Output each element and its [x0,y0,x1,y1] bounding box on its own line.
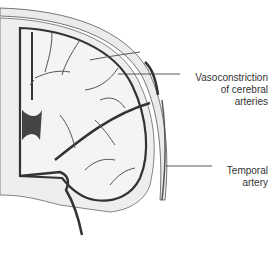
label-temporal-artery: Temporal artery [198,165,268,189]
brain-artery-illustration [0,0,273,254]
label-line: of cerebral [168,84,268,96]
label-line: Temporal [198,165,268,177]
label-line: Vasoconstriction [168,72,268,84]
label-vasoconstriction: Vasoconstriction of cerebral arteries [168,72,268,108]
label-line: arteries [168,96,268,108]
label-line: artery [198,177,268,189]
